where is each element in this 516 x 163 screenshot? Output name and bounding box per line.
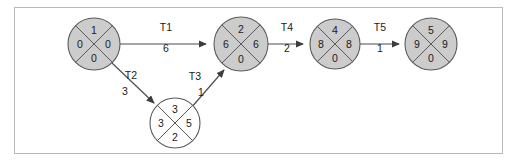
edge-t5[interactable]: T5 1 — [360, 21, 399, 54]
node-n5-left: 9 — [414, 38, 420, 50]
node-n5-right: 9 — [442, 38, 448, 50]
edge-label-t5-weight: 1 — [377, 42, 383, 54]
node-n3-right: 6 — [253, 38, 259, 50]
node-n2-bottom: 2 — [172, 131, 178, 143]
node-n4-top: 4 — [332, 24, 338, 36]
node-n4[interactable]: 4 8 8 0 — [310, 19, 360, 69]
node-n1-top: 1 — [91, 24, 97, 36]
node-n5-top: 5 — [428, 24, 434, 36]
edge-t1[interactable]: T1 6 — [120, 21, 206, 54]
edge-label-t3-name: T3 — [189, 70, 201, 82]
node-n5-bottom: 0 — [428, 52, 434, 64]
edge-label-t1-weight: 6 — [163, 42, 169, 54]
node-n5[interactable]: 5 9 9 0 — [405, 18, 457, 70]
node-n2-left: 3 — [158, 117, 164, 129]
edge-label-t1-name: T1 — [160, 21, 172, 33]
network-diagram: T1 6 T2 3 T3 1 T4 2 T5 1 1 — [0, 0, 516, 163]
node-n3-left: 6 — [223, 38, 229, 50]
node-n3-bottom: 0 — [238, 53, 244, 65]
node-n4-right: 8 — [346, 38, 352, 50]
edge-label-t4-name: T4 — [281, 21, 293, 33]
edge-label-t4-weight: 2 — [284, 42, 290, 54]
network-canvas: T1 6 T2 3 T3 1 T4 2 T5 1 1 — [0, 0, 516, 163]
node-n3-top: 2 — [238, 23, 244, 35]
edge-t2[interactable]: T2 3 — [112, 63, 154, 103]
node-n4-bottom: 0 — [332, 52, 338, 64]
edge-t4[interactable]: T4 2 — [268, 21, 303, 54]
node-n1[interactable]: 1 0 0 0 — [68, 18, 120, 70]
edge-t3[interactable]: T3 1 — [189, 70, 224, 108]
edge-label-t2-name: T2 — [125, 69, 137, 81]
node-n1-right: 0 — [105, 38, 111, 50]
node-n2-top: 3 — [172, 103, 178, 115]
edge-label-t2-weight: 3 — [122, 85, 128, 97]
node-n3[interactable]: 2 6 6 0 — [214, 17, 268, 71]
node-n2[interactable]: 3 3 5 2 — [150, 98, 200, 148]
node-n1-bottom: 0 — [91, 52, 97, 64]
edge-label-t5-name: T5 — [374, 21, 386, 33]
node-n1-left: 0 — [77, 38, 83, 50]
edge-label-t3-weight: 1 — [198, 86, 204, 98]
node-n2-right: 5 — [186, 117, 192, 129]
node-n4-left: 8 — [318, 38, 324, 50]
